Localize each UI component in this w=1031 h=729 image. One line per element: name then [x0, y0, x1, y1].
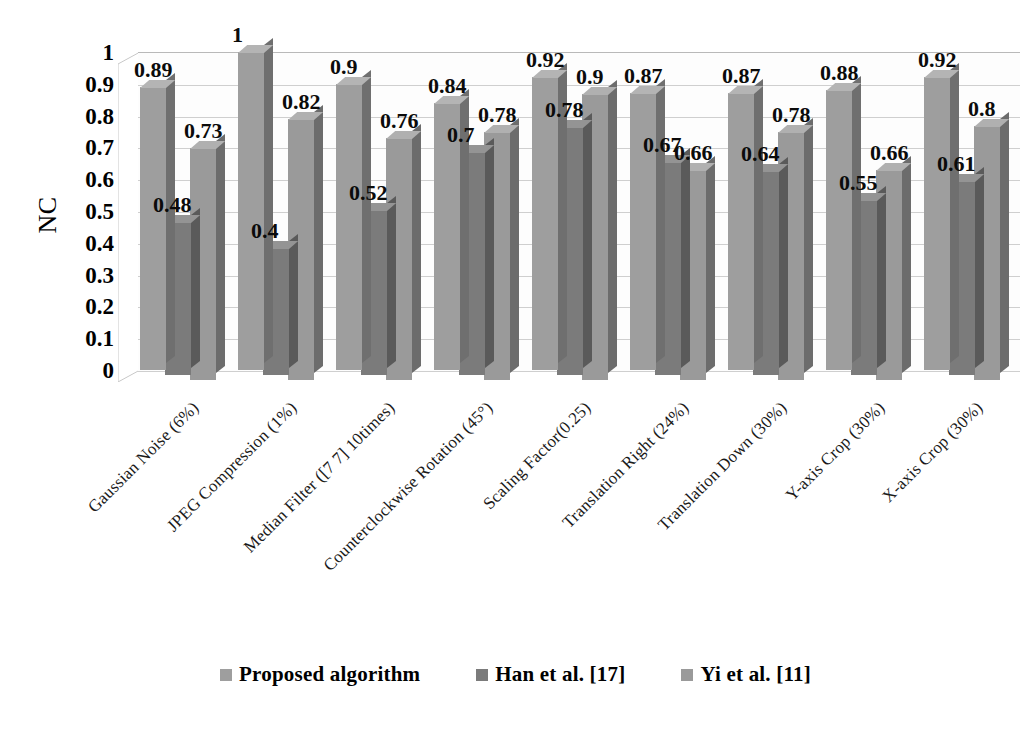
bar-side-face: [779, 157, 788, 368]
bar-value-label: 0.78: [545, 99, 584, 121]
y-axis-tick-label: 0.5: [42, 200, 114, 223]
bar-side-face: [804, 118, 813, 373]
bar-value-label: 0.82: [282, 91, 321, 113]
bar-group: 0.920.610.8: [924, 52, 1022, 370]
y-axis-tick-label: 0: [42, 359, 114, 382]
bar-value-label: 0.7: [447, 124, 475, 146]
bar-side-face: [950, 63, 959, 363]
bar-value-label: 0.78: [478, 104, 517, 126]
y-axis-tick-label: 0.3: [42, 264, 114, 287]
bar: [728, 93, 755, 370]
bar-value-label: 0.4: [251, 220, 279, 242]
y-axis-tick-label: 0.8: [42, 105, 114, 128]
bar-side-face: [216, 134, 225, 373]
bar-value-label: 0.88: [820, 62, 859, 84]
bar-side-face: [754, 79, 763, 363]
bar-value-label: 0.61: [937, 153, 976, 175]
bar-front-face: [826, 90, 852, 370]
bar: [238, 52, 265, 370]
bar-side-face: [314, 105, 323, 373]
bar-group: 10.40.82: [238, 52, 336, 370]
bar-side-face: [362, 70, 371, 363]
bar-front-face: [238, 52, 264, 370]
bar-front-face: [140, 87, 166, 370]
y-axis-tick-label: 0.7: [42, 136, 114, 159]
bar-side-face: [289, 234, 298, 368]
bar-value-label: 1: [232, 24, 243, 46]
legend-swatch-icon: [681, 669, 693, 681]
bar: [826, 90, 853, 370]
bar-group: 0.880.550.66: [826, 52, 924, 370]
legend-item-label: Proposed algorithm: [239, 662, 420, 687]
y-axis-tick-label: 0.1: [42, 327, 114, 350]
legend-item[interactable]: Proposed algorithm: [220, 662, 420, 687]
bar-group: 0.870.640.78: [728, 52, 826, 370]
bar-side-face: [656, 79, 665, 363]
legend-item-label: Yi et al. [11]: [700, 662, 811, 687]
y-axis-tick-label: 0.9: [42, 73, 114, 96]
bar-side-face: [681, 148, 690, 368]
bar-value-label: 0.52: [349, 182, 388, 204]
legend-item[interactable]: Han et al. [17]: [476, 662, 625, 687]
bar-chart: NC 10.90.80.70.60.50.40.30.20.10 0.890.4…: [0, 0, 1031, 729]
bar-group: 0.920.780.9: [532, 52, 630, 370]
bar-value-label: 0.66: [674, 142, 713, 164]
bar: [140, 87, 167, 370]
y-axis-tick-label: 0.6: [42, 168, 114, 191]
y-axis-tick-label: 0.2: [42, 295, 114, 318]
bar-value-label: 0.48: [153, 194, 192, 216]
bar-side-face: [412, 124, 421, 373]
bar: [336, 84, 363, 370]
legend-item-label: Han et al. [17]: [495, 662, 625, 687]
bar-front-face: [728, 93, 754, 370]
bar-value-label: 0.76: [380, 110, 419, 132]
bar-value-label: 0.89: [134, 59, 173, 81]
bar-side-face: [877, 186, 886, 368]
bar: [924, 77, 951, 370]
bar-value-label: 0.9: [576, 66, 604, 88]
bar-value-label: 0.92: [526, 49, 565, 71]
bar-side-face: [608, 80, 617, 373]
legend-item[interactable]: Yi et al. [11]: [681, 662, 811, 687]
bar-group: 0.840.70.78: [434, 52, 532, 370]
bar-side-face: [510, 118, 519, 373]
bar-side-face: [852, 76, 861, 363]
bar-value-label: 0.87: [722, 65, 761, 87]
bar-front-face: [336, 84, 362, 370]
bar-side-face: [706, 156, 715, 373]
plot-area: 0.890.480.7310.40.820.90.520.760.840.70.…: [118, 52, 1020, 382]
bar-side-face: [1000, 112, 1009, 373]
legend-swatch-icon: [476, 669, 488, 681]
bar-value-label: 0.73: [184, 120, 223, 142]
bar-value-label: 0.84: [428, 75, 467, 97]
y-axis-tick-label: 1: [42, 41, 114, 64]
bar-side-face: [485, 138, 494, 368]
bar-side-face: [191, 208, 200, 368]
bar-value-label: 0.78: [772, 104, 811, 126]
bar-side-face: [583, 113, 592, 368]
bar-value-label: 0.92: [918, 49, 957, 71]
bar-group: 0.90.520.76: [336, 52, 434, 370]
bar-front-face: [924, 77, 950, 370]
bar-value-label: 0.55: [839, 172, 878, 194]
bar-side-face: [264, 38, 273, 363]
bar-group: 0.890.480.73: [140, 52, 238, 370]
bar-value-label: 0.66: [870, 142, 909, 164]
bar-side-face: [166, 73, 175, 363]
bar-side-face: [387, 196, 396, 368]
chart-legend: Proposed algorithmHan et al. [17]Yi et a…: [0, 662, 1031, 687]
bar-value-label: 0.64: [741, 143, 780, 165]
bar-side-face: [902, 156, 911, 373]
bar-side-face: [975, 167, 984, 368]
bar-value-label: 0.9: [330, 56, 358, 78]
y-axis-tick-label: 0.4: [42, 232, 114, 255]
bar-group: 0.870.670.66: [630, 52, 728, 370]
x-axis-category-labels: Gaussian Noise (6%)JPEG Compression (1%)…: [0, 392, 1031, 592]
bar-series-container: 0.890.480.7310.40.820.90.520.760.840.70.…: [138, 52, 1020, 382]
legend-swatch-icon: [220, 669, 232, 681]
bar-value-label: 0.87: [624, 65, 663, 87]
axis-depth-wedge: [118, 52, 140, 382]
bar-value-label: 0.8: [968, 98, 996, 120]
